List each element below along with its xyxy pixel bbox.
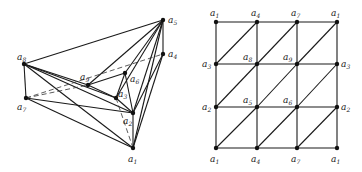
grid-vertex	[214, 105, 218, 109]
grid-vertex	[214, 62, 218, 66]
vertex-a7	[24, 96, 28, 100]
edge-a5-a3	[116, 20, 163, 98]
hidden-edge-a7-a4	[26, 54, 163, 98]
grid-label-a1: a1	[331, 154, 340, 165]
grid-label-a1: a1	[331, 8, 340, 19]
grid-vertex	[255, 146, 259, 150]
grid-vertex	[295, 62, 299, 66]
grid-diagonal	[297, 64, 337, 107]
edge-a8-a5	[24, 20, 163, 64]
grid-vertex	[335, 146, 339, 150]
grid-label-a5: a5	[243, 95, 252, 106]
vertex-a4	[161, 52, 165, 56]
vertex-label-a7: a7	[17, 102, 26, 113]
grid-label-a7: a7	[291, 8, 300, 19]
grid-vertex	[335, 105, 339, 109]
vertex-label-a3: a3	[118, 89, 127, 100]
grid-label-a3: a3	[202, 59, 211, 70]
grid-vertex	[335, 62, 339, 66]
grid-label-a1: a1	[210, 8, 219, 19]
diagram-canvas: a1a2a3a4a5a6a7a8a9 a1a4a7a1a3a8a9a3a2a5a…	[0, 0, 362, 172]
vertex-label-a1: a1	[128, 154, 137, 165]
grid-vertex	[255, 105, 259, 109]
edge-a9-a6	[88, 73, 125, 85]
grid-label-a3: a3	[341, 59, 350, 70]
grid-label-a7: a7	[291, 154, 300, 165]
grid-label-a8: a8	[243, 52, 252, 63]
vertex-a1	[131, 146, 135, 150]
grid-label-a6: a6	[283, 95, 292, 106]
vertex-label-a9: a9	[80, 72, 89, 83]
grid-vertex	[335, 20, 339, 24]
edge-a9-a3	[88, 85, 116, 98]
grid-label-a2: a2	[341, 102, 350, 113]
vertex-label-a2: a2	[123, 116, 132, 127]
grid-vertex	[255, 62, 259, 66]
grid-diagonal	[297, 22, 337, 64]
grid-diagonal	[216, 107, 257, 148]
vertex-label-a4: a4	[168, 49, 177, 60]
vertex-a9	[86, 83, 90, 87]
grid-label-a4: a4	[251, 154, 260, 165]
edge-a8-a3	[24, 64, 116, 98]
grid-vertex	[214, 146, 218, 150]
vertex-a6	[123, 71, 127, 75]
grid-vertex	[295, 146, 299, 150]
hidden-edge-a7-a9	[26, 85, 88, 98]
grid-label-a1: a1	[210, 154, 219, 165]
grid-diagonal	[297, 107, 337, 148]
vertex-a5	[161, 18, 165, 22]
torus-grid-diagram: a1a4a7a1a3a8a9a3a2a5a6a2a1a4a7a1	[202, 8, 350, 165]
grid-label-a4: a4	[251, 8, 260, 19]
vertex-label-a6: a6	[130, 74, 139, 85]
grid-vertex	[255, 20, 259, 24]
grid-label-a9: a9	[283, 52, 292, 63]
grid-vertex	[214, 20, 218, 24]
grid-vertex	[295, 20, 299, 24]
vertex-label-a8: a8	[17, 52, 26, 63]
grid-diagonal	[257, 107, 297, 148]
polyhedral-embedding-diagram: a1a2a3a4a5a6a7a8a9	[17, 15, 177, 165]
edge-a8-a7	[24, 64, 26, 98]
vertex-label-a5: a5	[168, 15, 177, 26]
grid-vertex	[295, 105, 299, 109]
vertex-a2	[131, 111, 135, 115]
grid-label-a2: a2	[202, 102, 211, 113]
